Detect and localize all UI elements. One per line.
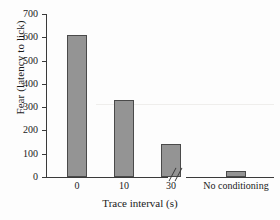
axis-break-icon (166, 167, 188, 183)
y-tick-mark (42, 177, 46, 178)
y-tick-mark (42, 154, 46, 155)
bar (67, 35, 87, 177)
y-tick-label: 100 (6, 149, 38, 159)
y-axis-spine (46, 14, 47, 178)
x-axis-spine-right (186, 177, 274, 178)
bar (226, 171, 246, 177)
y-tick-mark (42, 37, 46, 38)
x-tick-label: 10 (119, 181, 129, 191)
y-tick-label: 500 (6, 56, 38, 66)
y-tick-label: 300 (6, 102, 38, 112)
x-tick-label: No conditioning (203, 181, 268, 191)
y-tick-mark (42, 61, 46, 62)
bar-chart-figure: Fear (latency to lick) 01002003004005006… (0, 0, 280, 220)
y-tick-mark (42, 14, 46, 15)
plot-area: 0100200300400500600700 01030No condition… (46, 14, 274, 178)
y-tick-mark (42, 84, 46, 85)
bar (114, 100, 134, 177)
x-axis-title: Trace interval (s) (0, 198, 280, 209)
y-tick-mark (42, 130, 46, 131)
y-tick-label: 0 (6, 172, 38, 182)
y-tick-label: 600 (6, 32, 38, 42)
y-tick-mark (42, 107, 46, 108)
y-tick-label: 700 (6, 9, 38, 19)
x-axis-spine-left (46, 177, 168, 178)
x-tick-label: 0 (75, 181, 80, 191)
y-tick-label: 200 (6, 125, 38, 135)
y-tick-label: 400 (6, 79, 38, 89)
